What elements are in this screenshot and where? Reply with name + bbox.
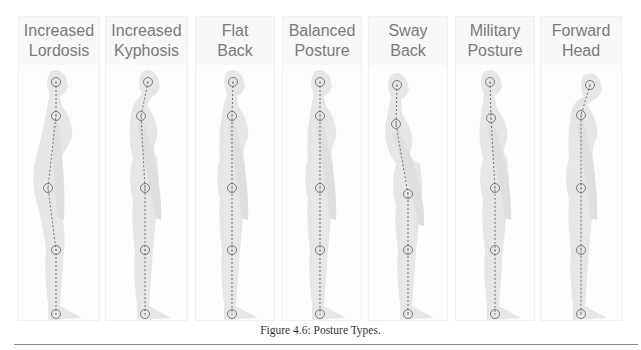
figure-caption: Figure 4.6: Posture Types. xyxy=(0,324,641,336)
human-silhouette-icon xyxy=(0,0,641,325)
horizontal-rule xyxy=(14,344,638,345)
posture-types-figure: Increased LordosisIncreased KyphosisFlat… xyxy=(0,0,641,325)
